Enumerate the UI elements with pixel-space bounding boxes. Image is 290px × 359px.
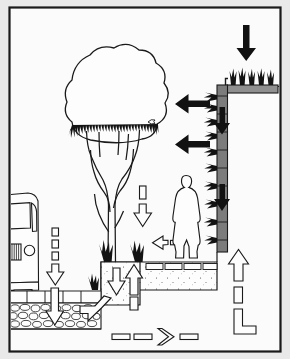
green-roof-substrate — [227, 85, 278, 93]
figure-frame — [0, 0, 290, 359]
section-diagram — [0, 0, 290, 359]
terrace-capping — [146, 264, 217, 270]
